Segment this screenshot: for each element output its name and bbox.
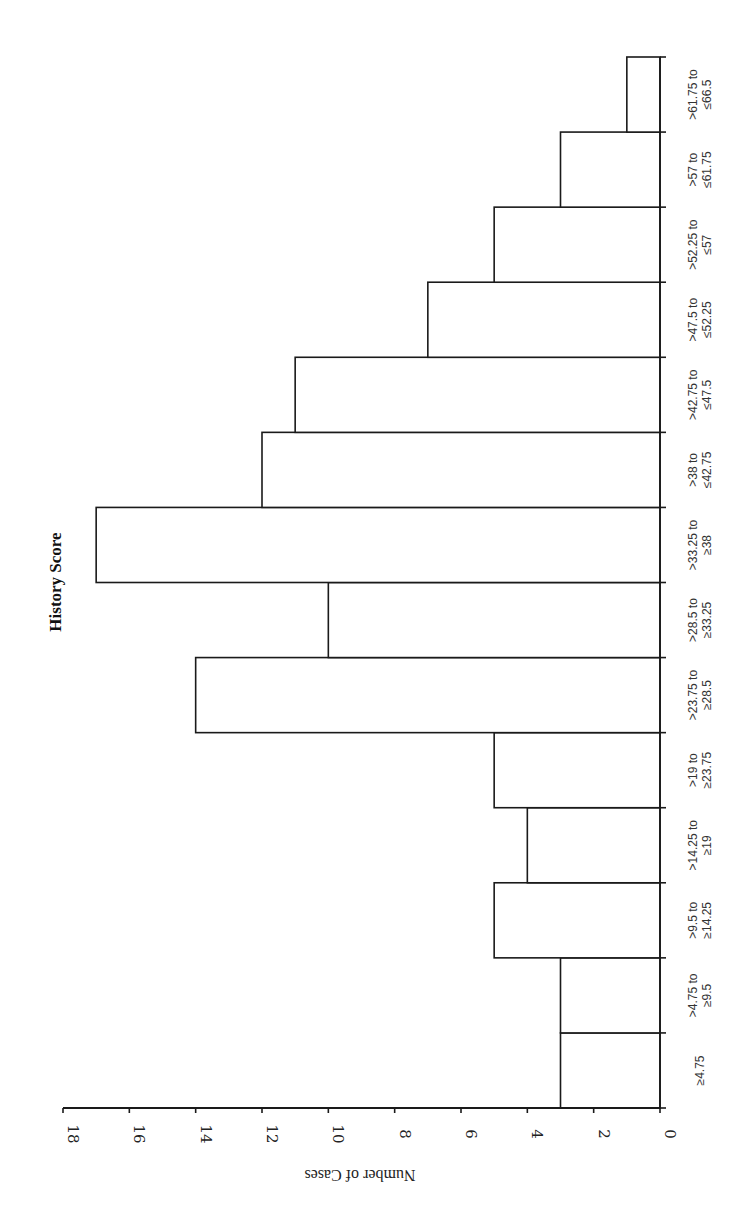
category-label-line: >61.75 to xyxy=(686,69,700,120)
category-label-line: ≤66.5 xyxy=(700,79,714,109)
value-tick-label: 18 xyxy=(64,1124,82,1143)
category-label: >57 to≤61.75 xyxy=(686,151,714,188)
category-label-line: ≤61.75 xyxy=(700,151,714,188)
value-tick-label: 10 xyxy=(329,1124,347,1143)
value-tick-label: 8 xyxy=(396,1129,414,1139)
value-tick-label: 12 xyxy=(263,1124,281,1143)
chart-canvas: 024681012141618 ≥4.75>4.75 to≥9.5>9.5 to… xyxy=(0,0,740,1222)
category-label: >23.75 to≥28.5 xyxy=(686,670,714,721)
value-tick-label: 2 xyxy=(595,1129,613,1139)
category-label: >33.25 to≥38 xyxy=(686,519,714,570)
histogram-bar xyxy=(96,507,660,582)
category-label-line: ≥28.5 xyxy=(700,680,714,710)
histogram-bar xyxy=(295,357,660,432)
category-label-line: >9.5 to xyxy=(686,901,700,938)
value-tick-label: 4 xyxy=(528,1129,546,1139)
category-label-line: >57 to xyxy=(686,152,700,186)
histogram-bar xyxy=(561,1033,661,1108)
category-label-line: ≥9.5 xyxy=(700,983,714,1007)
category-label-line: ≥4.75 xyxy=(693,1055,707,1085)
histogram-bar xyxy=(561,958,661,1033)
category-label: ≥4.75 xyxy=(693,1055,707,1085)
value-tick-label: 0 xyxy=(661,1129,679,1139)
value-tick-label: 16 xyxy=(130,1124,148,1143)
chart-title: History Score xyxy=(46,532,65,632)
category-label: >9.5 to≥14.25 xyxy=(686,901,714,938)
category-label-line: >4.75 to xyxy=(686,973,700,1017)
histogram-bar xyxy=(196,658,660,733)
histogram-bar xyxy=(494,733,660,808)
category-label-line: >38 to xyxy=(686,453,700,487)
value-tick-label: 14 xyxy=(197,1124,215,1143)
category-label-line: >42.75 to xyxy=(686,369,700,420)
category-label: >42.75 to≤47.5 xyxy=(686,369,714,420)
histogram-bar xyxy=(561,132,661,207)
category-label-line: ≤52.25 xyxy=(700,301,714,338)
histogram-bar xyxy=(627,57,660,132)
category-label: >47.5 to≤52.25 xyxy=(686,298,714,342)
histogram-bar xyxy=(328,583,660,658)
category-label-line: ≤42.75 xyxy=(700,451,714,488)
category-label: >28.5 to≥33.25 xyxy=(686,598,714,642)
category-label-line: ≥33.25 xyxy=(700,601,714,638)
category-label-line: ≥38 xyxy=(700,535,714,555)
category-label-line: ≤47.5 xyxy=(700,380,714,410)
category-label-line: ≥14.25 xyxy=(700,902,714,939)
category-label-line: ≤57 xyxy=(700,234,714,254)
bars xyxy=(96,57,660,1108)
category-label: >38 to≤42.75 xyxy=(686,451,714,488)
category-label-line: >19 to xyxy=(686,753,700,787)
category-label-line: >23.75 to xyxy=(686,670,700,721)
category-label: >61.75 to≤66.5 xyxy=(686,69,714,120)
category-label-line: >14.25 to xyxy=(686,820,700,871)
category-label: >14.25 to≥19 xyxy=(686,820,714,871)
category-label: >52.25 to≤57 xyxy=(686,219,714,270)
category-label-line: ≥23.75 xyxy=(700,752,714,789)
category-label-line: >28.5 to xyxy=(686,598,700,642)
category-label-line: >33.25 to xyxy=(686,519,700,570)
category-labels: ≥4.75>4.75 to≥9.5>9.5 to≥14.25>14.25 to≥… xyxy=(686,69,714,1085)
histogram-bar xyxy=(494,207,660,282)
category-label: >19 to≥23.75 xyxy=(686,752,714,789)
category-label-line: >52.25 to xyxy=(686,219,700,270)
category-label-line: ≥19 xyxy=(700,835,714,855)
value-tick-label: 6 xyxy=(462,1129,480,1139)
histogram-bar xyxy=(494,883,660,958)
histogram-bar xyxy=(527,808,660,883)
histogram-chart: 024681012141618 ≥4.75>4.75 to≥9.5>9.5 to… xyxy=(0,0,740,1222)
histogram-bar xyxy=(428,282,660,357)
category-label: >4.75 to≥9.5 xyxy=(686,973,714,1017)
category-label-line: >47.5 to xyxy=(686,298,700,342)
value-axis-title: Number of Cases xyxy=(304,1167,415,1184)
histogram-bar xyxy=(262,432,660,507)
